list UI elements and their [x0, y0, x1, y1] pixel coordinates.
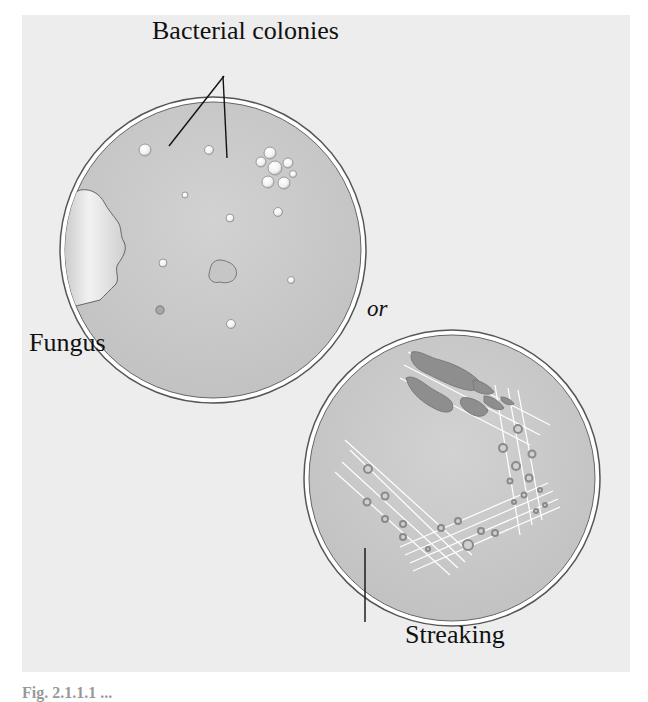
contaminated-plate	[60, 97, 366, 403]
bacterial-colonies-label: Bacterial colonies	[152, 18, 339, 44]
dark-colony	[156, 306, 164, 314]
or-label: or	[367, 297, 387, 320]
streaked-plate	[304, 330, 600, 626]
figure-caption: Fig. 2.1.1.1 ...	[22, 684, 112, 702]
fungus-label: Fungus	[29, 330, 106, 356]
streaking-label: Streaking	[405, 622, 505, 648]
